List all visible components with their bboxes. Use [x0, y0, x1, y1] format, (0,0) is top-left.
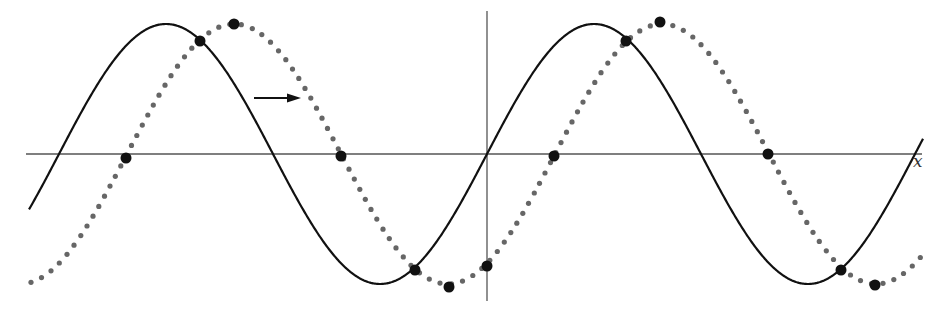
marker-point [621, 36, 632, 47]
marker-point [763, 149, 774, 160]
marker-point [549, 151, 560, 162]
right-arrow-icon [254, 94, 301, 103]
marker-point [482, 261, 493, 272]
wave-diagram [0, 0, 947, 311]
marker-point [336, 151, 347, 162]
x-axis-label: x [913, 151, 923, 171]
marker-point [410, 265, 421, 276]
marker-point [870, 280, 881, 291]
marker-point [655, 17, 666, 28]
marker-point [121, 153, 132, 164]
marker-point [836, 265, 847, 276]
marker-point [444, 282, 455, 293]
marker-point [195, 36, 206, 47]
marker-point [229, 19, 240, 30]
